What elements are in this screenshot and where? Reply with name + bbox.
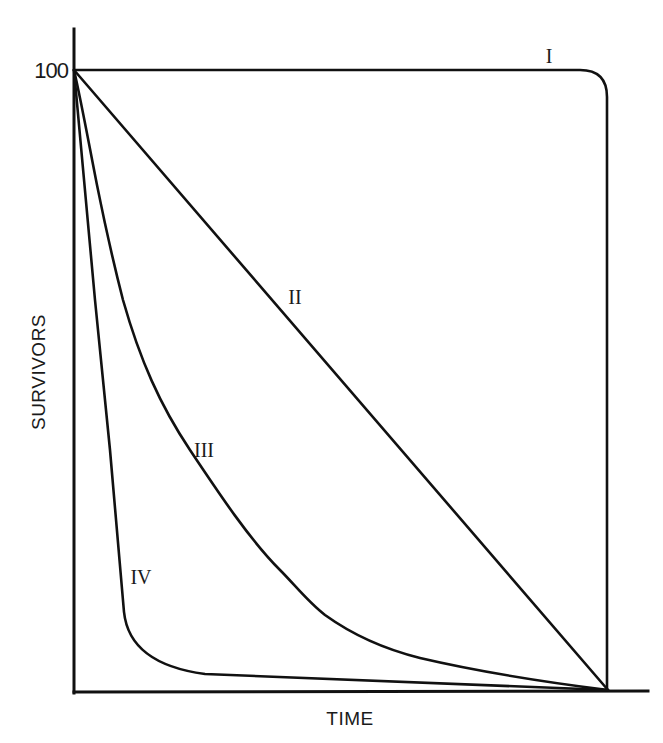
curve-label-II: II <box>288 286 301 308</box>
curve-label-III: III <box>194 439 214 461</box>
curve-label-IV: IV <box>130 566 152 588</box>
curve-II <box>74 70 608 690</box>
survivorship-chart: 100 TIME SURVIVORS I II III IV <box>0 0 663 743</box>
x-axis <box>74 691 648 692</box>
y-tick-100: 100 <box>34 58 68 83</box>
y-axis-title: SURVIVORS <box>28 314 49 430</box>
x-axis-title: TIME <box>326 708 373 729</box>
curve-label-I: I <box>546 45 553 67</box>
